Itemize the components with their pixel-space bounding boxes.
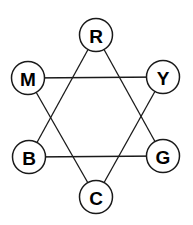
edge-m-y [28,77,163,78]
nodes-group: RYGCBM [12,19,180,214]
node-b: B [13,141,46,174]
color-hexagram-diagram: RYGCBM [0,0,193,225]
node-label: Y [157,68,170,89]
node-y: Y [147,61,180,94]
node-c: C [80,181,113,214]
node-m: M [12,62,45,95]
node-g: G [147,140,180,173]
node-r: R [80,19,113,52]
node-label: C [89,188,103,209]
node-label: G [156,147,171,168]
edge-b-g [29,156,163,157]
node-label: R [89,26,103,47]
edges-group [28,35,163,197]
node-label: B [22,148,36,169]
node-label: M [20,69,36,90]
